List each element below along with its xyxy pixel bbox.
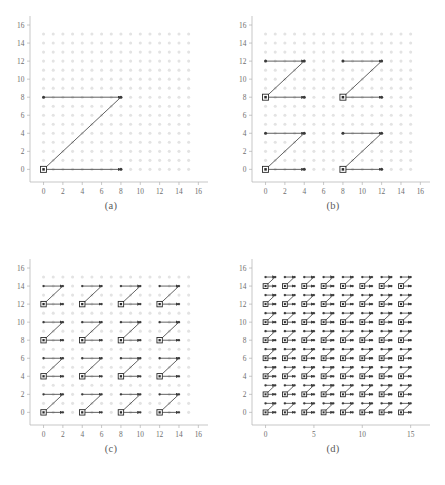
svg-text:14: 14 <box>239 39 247 48</box>
svg-text:8: 8 <box>21 93 25 102</box>
svg-text:12: 12 <box>156 430 164 439</box>
svg-text:15: 15 <box>407 430 415 439</box>
svg-text:2: 2 <box>61 187 65 196</box>
svg-text:16: 16 <box>17 21 25 30</box>
svg-text:14: 14 <box>239 282 247 291</box>
svg-text:16: 16 <box>195 430 203 439</box>
svg-text:0: 0 <box>21 408 25 417</box>
svg-text:12: 12 <box>156 187 164 196</box>
panel-b-caption: (b) <box>222 200 444 211</box>
svg-text:14: 14 <box>175 187 183 196</box>
panel-a-caption: (a) <box>0 200 222 211</box>
svg-text:8: 8 <box>243 336 247 345</box>
svg-text:4: 4 <box>243 129 247 138</box>
svg-text:8: 8 <box>21 336 25 345</box>
svg-text:16: 16 <box>17 264 25 273</box>
svg-text:0: 0 <box>21 165 25 174</box>
svg-text:4: 4 <box>21 372 25 381</box>
svg-text:0: 0 <box>42 187 46 196</box>
svg-text:8: 8 <box>243 93 247 102</box>
svg-text:0: 0 <box>264 430 268 439</box>
svg-text:0: 0 <box>42 430 46 439</box>
svg-text:8: 8 <box>341 187 345 196</box>
svg-text:6: 6 <box>243 111 247 120</box>
svg-text:4: 4 <box>243 372 247 381</box>
svg-text:4: 4 <box>302 187 306 196</box>
panel-c: 02468101214160246810121416 (c) <box>0 243 222 485</box>
svg-text:10: 10 <box>17 318 25 327</box>
svg-text:16: 16 <box>195 187 203 196</box>
svg-text:16: 16 <box>239 264 247 273</box>
svg-text:14: 14 <box>17 39 25 48</box>
svg-text:16: 16 <box>417 187 425 196</box>
svg-text:10: 10 <box>239 318 247 327</box>
svg-text:8: 8 <box>119 430 123 439</box>
panel-a: 02468101214160246810121416 (a) <box>0 0 222 242</box>
svg-text:12: 12 <box>239 300 247 309</box>
panel-c-caption: (c) <box>0 443 222 454</box>
svg-text:8: 8 <box>119 187 123 196</box>
svg-text:6: 6 <box>21 111 25 120</box>
svg-text:12: 12 <box>17 57 25 66</box>
svg-text:6: 6 <box>21 354 25 363</box>
svg-text:4: 4 <box>21 129 25 138</box>
svg-text:6: 6 <box>322 187 326 196</box>
svg-text:6: 6 <box>243 354 247 363</box>
svg-text:14: 14 <box>17 282 25 291</box>
svg-text:16: 16 <box>239 21 247 30</box>
svg-text:4: 4 <box>80 187 84 196</box>
svg-text:2: 2 <box>21 390 25 399</box>
svg-text:0: 0 <box>264 187 268 196</box>
scan-path <box>44 97 121 169</box>
panel-c-plot: 02468101214160246810121416 <box>0 243 222 455</box>
svg-text:2: 2 <box>283 187 287 196</box>
panel-b: 02468101214160246810121416 (b) <box>222 0 444 242</box>
figure-container: 02468101214160246810121416 (a) 024681012… <box>0 0 445 485</box>
svg-text:12: 12 <box>17 300 25 309</box>
panel-d-caption: (d) <box>222 443 444 454</box>
svg-text:10: 10 <box>137 187 145 196</box>
svg-text:14: 14 <box>175 430 183 439</box>
svg-text:0: 0 <box>243 165 247 174</box>
svg-text:10: 10 <box>17 75 25 84</box>
svg-text:4: 4 <box>80 430 84 439</box>
svg-text:10: 10 <box>137 430 145 439</box>
svg-text:2: 2 <box>61 430 65 439</box>
svg-text:10: 10 <box>359 430 367 439</box>
svg-text:6: 6 <box>100 430 104 439</box>
panel-b-plot: 02468101214160246810121416 <box>222 0 444 212</box>
svg-text:2: 2 <box>243 390 247 399</box>
svg-text:6: 6 <box>100 187 104 196</box>
panel-d-plot: 0510150246810121416 <box>222 243 444 455</box>
svg-text:14: 14 <box>397 187 405 196</box>
svg-text:10: 10 <box>359 187 367 196</box>
svg-text:12: 12 <box>378 187 386 196</box>
anchor-markers <box>41 166 47 172</box>
svg-text:5: 5 <box>312 430 316 439</box>
panel-a-plot: 02468101214160246810121416 <box>0 0 222 212</box>
svg-text:0: 0 <box>243 408 247 417</box>
svg-text:12: 12 <box>239 57 247 66</box>
svg-text:10: 10 <box>239 75 247 84</box>
svg-text:2: 2 <box>21 147 25 156</box>
svg-text:2: 2 <box>243 147 247 156</box>
panel-d: 0510150246810121416 (d) <box>222 243 444 485</box>
